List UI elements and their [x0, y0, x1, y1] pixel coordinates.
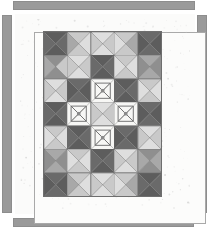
quilt-block-grid — [43, 31, 162, 197]
quilt-block-r6c4 — [114, 149, 137, 172]
quilt-block-r1c2 — [67, 32, 90, 55]
quilt-block-r2c4 — [114, 55, 137, 78]
quilt-block-r2c2 — [67, 55, 90, 78]
quilt-block-r5c5 — [138, 126, 161, 149]
quilt-block-r7c2 — [67, 173, 90, 196]
quilt-block-r3c3 — [91, 79, 114, 102]
quilt-block-r3c4 — [114, 79, 137, 102]
quilt-block-r3c5 — [138, 79, 161, 102]
sashing-bar-top — [13, 1, 195, 10]
quilt-block-r4c2 — [67, 102, 90, 125]
quilt-block-r1c5 — [138, 32, 161, 55]
quilt-block-r4c1 — [44, 102, 67, 125]
quilt-block-r4c5 — [138, 102, 161, 125]
quilt-block-r1c3 — [91, 32, 114, 55]
quilt-block-r7c5 — [138, 173, 161, 196]
quilt-block-r4c4 — [114, 102, 137, 125]
quilt-block-r7c1 — [44, 173, 67, 196]
quilt-block-r5c2 — [67, 126, 90, 149]
sashing-bar-left — [2, 15, 12, 213]
quilt-block-r5c3 — [91, 126, 114, 149]
quilt-block-r7c3 — [91, 173, 114, 196]
quilt-block-r6c1 — [44, 149, 67, 172]
quilt-scene — [0, 0, 210, 228]
quilt-block-r7c4 — [114, 173, 137, 196]
quilt-block-r3c1 — [44, 79, 67, 102]
quilt-block-r1c1 — [44, 32, 67, 55]
quilt-block-r6c5 — [138, 149, 161, 172]
quilt-block-r5c1 — [44, 126, 67, 149]
quilt-block-r4c3 — [91, 102, 114, 125]
quilt-block-r2c5 — [138, 55, 161, 78]
quilt-block-r6c3 — [91, 149, 114, 172]
quilt-block-r5c4 — [114, 126, 137, 149]
quilt-block-r2c1 — [44, 55, 67, 78]
quilt-block-r3c2 — [67, 79, 90, 102]
quilt-block-r6c2 — [67, 149, 90, 172]
quilt-block-r1c4 — [114, 32, 137, 55]
quilt-block-r2c3 — [91, 55, 114, 78]
